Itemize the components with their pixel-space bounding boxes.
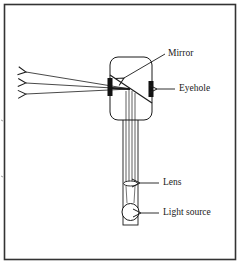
light-source-label: Light source: [163, 208, 211, 218]
mirror-label: Mirror: [168, 49, 193, 59]
front-aperture: [108, 78, 113, 96]
edge-tick-mark: [1, 176, 3, 177]
lens-label: Lens: [163, 178, 181, 188]
eyehole-aperture: [149, 81, 154, 97]
lens: [124, 181, 138, 186]
diagram-canvas: [0, 0, 243, 270]
edge-tick-mark: [1, 120, 3, 121]
diagram-figure: Mirror Eyehole Lens Light source: [0, 0, 243, 270]
eyehole-label: Eyehole: [179, 84, 210, 94]
figure-frame: [5, 5, 236, 260]
light-source: [122, 204, 139, 221]
